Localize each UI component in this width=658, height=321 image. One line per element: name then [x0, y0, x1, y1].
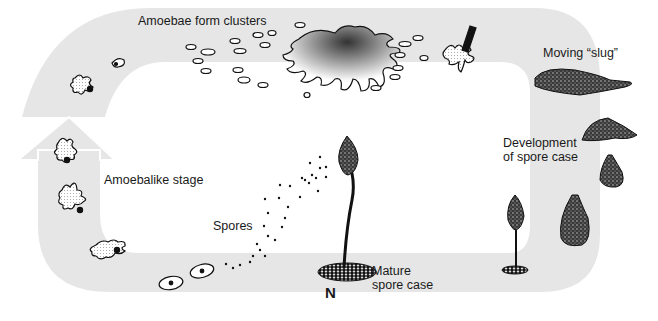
label-spores: Spores: [213, 219, 253, 233]
label-amoebae-form-clusters: Amoebae form clusters: [138, 14, 267, 28]
label-development-line1: Development: [503, 136, 577, 150]
label-moving-slug: Moving “slug”: [543, 46, 618, 60]
label-mature-line1: Mature: [372, 264, 411, 278]
label-development-line2: of spore case: [503, 150, 578, 164]
label-n-marker: N: [325, 286, 336, 300]
life-cycle-diagram: Amoebae form clusters Moving “slug” Deve…: [0, 0, 658, 321]
label-mature-line2: spore case: [372, 278, 433, 292]
spores-dots: [225, 156, 327, 269]
label-amoebalike-stage: Amoebalike stage: [104, 173, 203, 187]
